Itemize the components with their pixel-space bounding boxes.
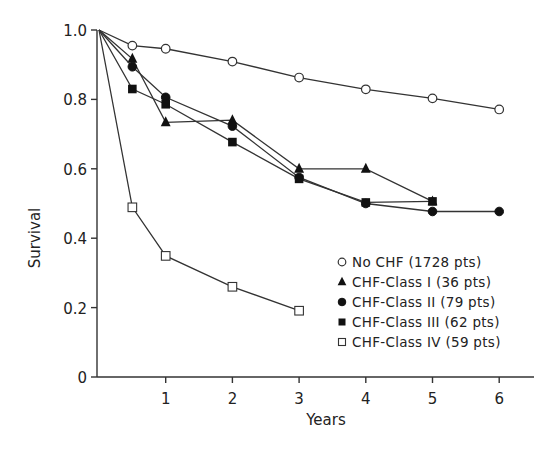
- series-line: [99, 30, 499, 109]
- filled-square-marker-icon: [161, 100, 170, 109]
- series-line: [99, 30, 499, 211]
- y-tick-label: 0: [77, 369, 87, 387]
- y-tick-label: 0.4: [63, 230, 87, 248]
- series-2: [99, 30, 437, 205]
- legend: No CHF (1728 pts)CHF-Class I (36 pts)CHF…: [338, 254, 501, 350]
- filled-square-marker-icon: [295, 175, 304, 184]
- open-square-marker-icon: [161, 252, 170, 261]
- y-axis-label: Survival: [26, 208, 44, 268]
- open-circle-marker-icon: [495, 105, 504, 114]
- x-tick-label: 1: [161, 390, 171, 408]
- y-tick-label: 0.6: [63, 161, 87, 179]
- filled-triangle-marker-icon: [127, 53, 137, 63]
- open-circle-marker-icon: [161, 44, 170, 53]
- y-tick-label: 0.2: [63, 300, 87, 318]
- filled-triangle-marker-icon: [161, 116, 171, 126]
- filled-circle-marker-icon: [228, 122, 237, 131]
- legend-item: No CHF (1728 pts): [338, 254, 481, 270]
- series-4: [99, 30, 437, 207]
- open-square-marker-icon: [128, 203, 137, 212]
- chart-canvas: 00.20.40.60.81.0123456 No CHF (1728 pts)…: [0, 0, 557, 456]
- legend-label: CHF-Class III (62 pts): [352, 314, 500, 330]
- filled-triangle-marker-icon: [338, 277, 347, 286]
- x-tick-label: 6: [494, 390, 504, 408]
- open-circle-marker-icon: [362, 85, 371, 94]
- legend-item: CHF-Class I (36 pts): [338, 274, 492, 290]
- legend-item: CHF-Class II (79 pts): [338, 294, 495, 310]
- series-layer: [99, 30, 504, 315]
- filled-square-marker-icon: [128, 85, 137, 94]
- open-circle-marker-icon: [428, 94, 437, 103]
- open-square-marker-icon: [295, 306, 304, 315]
- filled-triangle-marker-icon: [294, 163, 304, 173]
- series-line: [99, 30, 433, 201]
- x-tick-label: 5: [428, 390, 438, 408]
- open-square-marker-icon: [339, 339, 346, 346]
- series-5: [99, 30, 303, 315]
- legend-item: CHF-Class III (62 pts): [339, 314, 500, 330]
- y-tick-label: 0.8: [63, 91, 87, 109]
- filled-square-marker-icon: [339, 319, 346, 326]
- open-circle-marker-icon: [128, 41, 137, 50]
- open-circle-marker-icon: [338, 258, 346, 266]
- legend-label: No CHF (1728 pts): [352, 254, 481, 270]
- series-3: [99, 30, 504, 216]
- x-tick-label: 4: [361, 390, 371, 408]
- filled-circle-marker-icon: [338, 298, 346, 306]
- x-tick-label: 2: [228, 390, 238, 408]
- open-square-marker-icon: [228, 282, 237, 291]
- series-line: [99, 30, 299, 311]
- filled-square-marker-icon: [428, 197, 437, 206]
- open-circle-marker-icon: [295, 73, 304, 82]
- legend-label: CHF-Class II (79 pts): [352, 294, 495, 310]
- legend-label: CHF-Class IV (59 pts): [352, 334, 501, 350]
- filled-square-marker-icon: [362, 198, 371, 207]
- x-axis-label: Years: [305, 411, 346, 429]
- filled-circle-marker-icon: [495, 207, 504, 216]
- legend-item: CHF-Class IV (59 pts): [339, 334, 501, 350]
- x-tick-label: 3: [294, 390, 304, 408]
- y-tick-label: 1.0: [63, 22, 87, 40]
- filled-circle-marker-icon: [428, 207, 437, 216]
- open-circle-marker-icon: [228, 57, 237, 66]
- filled-square-marker-icon: [228, 138, 237, 147]
- survival-chart: 00.20.40.60.81.0123456 No CHF (1728 pts)…: [0, 0, 557, 456]
- filled-triangle-marker-icon: [361, 163, 371, 173]
- legend-label: CHF-Class I (36 pts): [352, 274, 491, 290]
- filled-circle-marker-icon: [128, 62, 137, 71]
